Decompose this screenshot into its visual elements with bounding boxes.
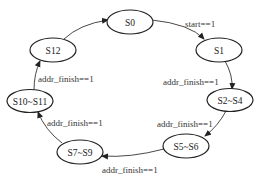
state-label: S10~S11 <box>13 97 48 107</box>
edge-s5s6-s7s9 <box>102 149 164 156</box>
state-s2-s4: S2~S4 <box>207 89 253 112</box>
state-s0: S0 <box>107 10 153 34</box>
state-label: S5~S6 <box>173 142 198 152</box>
edge-label-s0-s1: start==1 <box>185 19 215 29</box>
edge-s12-s0 <box>64 20 108 39</box>
edge-label-s5s6-s7s9: addr_finish==1 <box>102 165 158 175</box>
edge-label-s1-s2s4: addr_finish==1 <box>163 77 219 87</box>
state-label: S1 <box>214 46 224 56</box>
state-s10-s11: S10~S11 <box>7 90 53 113</box>
state-label: S0 <box>125 18 135 28</box>
state-diagram: start==1 addr_finish==1 addr_finish==1 a… <box>0 0 266 185</box>
edge-label-s2s4-s5s6: addr_finish==1 <box>157 119 213 129</box>
state-s12: S12 <box>30 38 76 62</box>
state-label: S2~S4 <box>217 96 242 106</box>
state-s1: S1 <box>196 38 242 62</box>
edge-s1-s2s4 <box>225 61 232 89</box>
edge-label-s10s11-s12: addr_finish==1 <box>38 74 94 84</box>
state-label: S7~S9 <box>67 148 92 158</box>
edge-label-s7s9-s10s11: addr_finish==1 <box>47 118 103 128</box>
state-s5-s6: S5~S6 <box>163 134 209 158</box>
state-s7-s9: S7~S9 <box>57 140 103 164</box>
state-label: S12 <box>46 46 61 56</box>
